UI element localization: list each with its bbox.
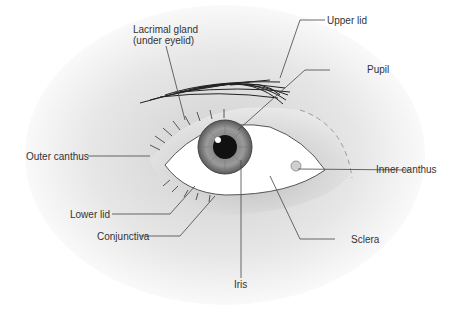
label-iris: Iris [234, 279, 247, 290]
pupil-highlight [215, 137, 221, 143]
label-lacrimal-gland-line2: (under eyelid) [133, 35, 198, 46]
label-lower-lid: Lower lid [70, 209, 110, 220]
eye-diagram: Lacrimal gland (under eyelid) Upper lid … [0, 0, 455, 310]
label-sclera: Sclera [351, 234, 379, 245]
label-upper-lid: Upper lid [327, 15, 367, 26]
caruncle [291, 161, 301, 171]
label-pupil: Pupil [367, 64, 389, 75]
label-lacrimal-gland: Lacrimal gland (under eyelid) [133, 24, 198, 46]
label-outer-canthus: Outer canthus [26, 151, 89, 162]
label-inner-canthus: Inner canthus [376, 164, 437, 175]
label-lacrimal-gland-line1: Lacrimal gland [133, 24, 198, 35]
label-conjunctiva: Conjunctiva [97, 231, 149, 242]
